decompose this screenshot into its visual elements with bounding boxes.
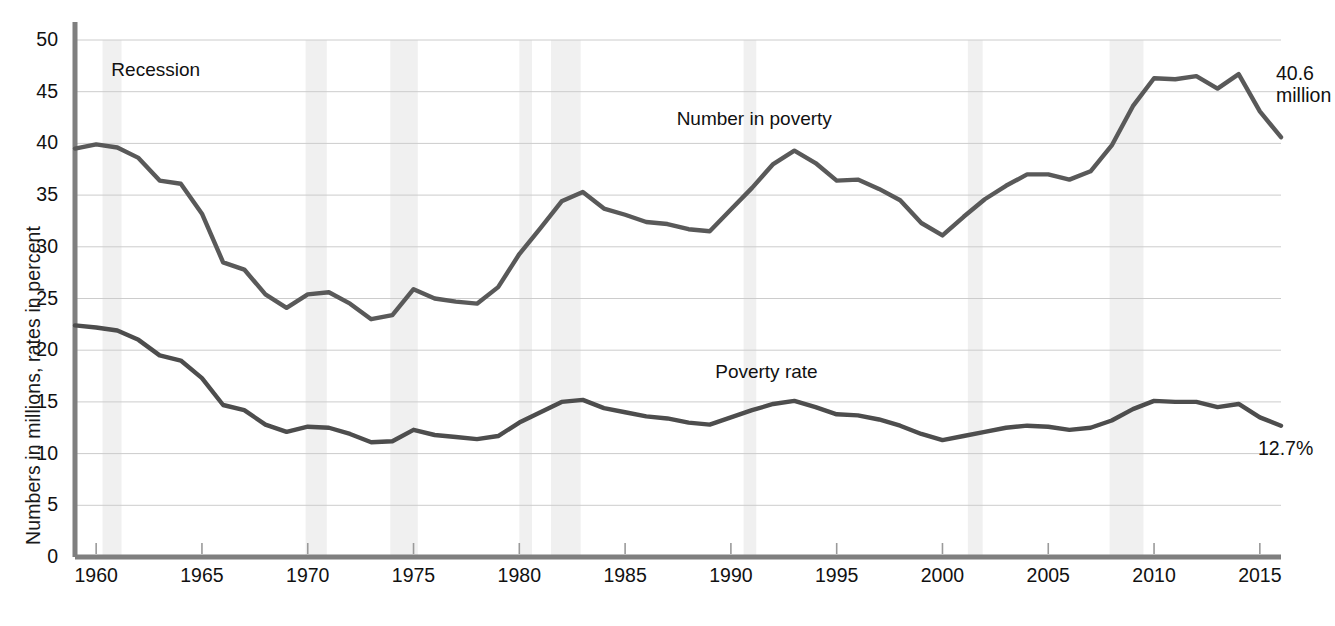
y-tick-label: 15 <box>18 392 58 412</box>
x-tick-label: 1990 <box>696 566 766 586</box>
x-tick-label: 1980 <box>484 566 554 586</box>
end-label-unit: million <box>1276 84 1331 106</box>
x-tick-label: 1970 <box>273 566 343 586</box>
x-tick-label: 1995 <box>802 566 872 586</box>
annotation-recession: Recession <box>111 59 200 81</box>
x-tick-label: 1985 <box>590 566 660 586</box>
x-tick-label: 2015 <box>1225 566 1295 586</box>
end-label-value: 40.6 <box>1276 62 1331 84</box>
end-label-number-in-poverty: 40.6million <box>1276 62 1331 107</box>
y-tick-label: 5 <box>18 495 58 515</box>
x-tick-label: 2005 <box>1013 566 1083 586</box>
y-tick-label: 25 <box>18 289 58 309</box>
y-tick-label: 45 <box>18 82 58 102</box>
y-tick-label: 10 <box>18 444 58 464</box>
annotation-poverty-rate: Poverty rate <box>715 361 817 383</box>
x-tick-label: 1965 <box>167 566 237 586</box>
y-tick-label: 30 <box>18 237 58 257</box>
y-tick-label: 40 <box>18 133 58 153</box>
poverty-chart-figure: Numbers in millions, rates in percent 05… <box>0 0 1335 626</box>
y-tick-label: 50 <box>18 30 58 50</box>
end-label-poverty-rate: 12.7% <box>1258 437 1313 459</box>
series-line-poverty-rate <box>75 325 1281 442</box>
x-tick-label: 1960 <box>61 566 131 586</box>
x-tick-label: 2000 <box>907 566 977 586</box>
y-tick-label: 35 <box>18 185 58 205</box>
x-tick-label: 2010 <box>1119 566 1189 586</box>
axis-group <box>75 22 1281 557</box>
annotation-number-in-poverty: Number in poverty <box>677 108 832 130</box>
x-tick-label: 1975 <box>379 566 449 586</box>
y-tick-label: 0 <box>18 547 58 567</box>
chart-plot-area <box>0 0 1335 626</box>
x-tick-group <box>96 543 1260 554</box>
y-tick-label: 20 <box>18 340 58 360</box>
